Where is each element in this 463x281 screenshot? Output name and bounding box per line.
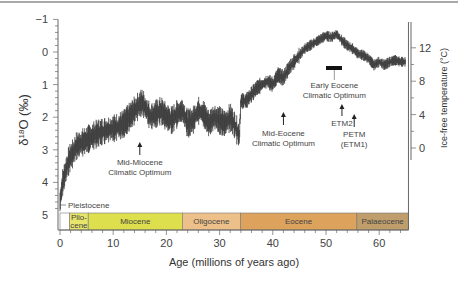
epoch-label: Oligocene [193,217,230,226]
annotation-label: Climatic Optimum [252,139,315,148]
x-tick-label: 40 [267,237,279,249]
arrow-head-icon [137,142,142,147]
x-tick-label: 10 [107,237,119,249]
y-tick-label: 3 [42,144,48,156]
y-tick-label: 5 [42,209,48,221]
x-tick-label: 30 [213,237,225,249]
annotation-label: Mid-Miocene [117,158,163,167]
y2-axis-title: Ice-free temperature (°C) [439,48,449,148]
epoch-label: Miocene [120,217,151,226]
y-tick-label: 2 [42,111,48,123]
annotation-label: Early Eocene [311,81,359,90]
y-tick-label: −1 [35,13,48,25]
annotation-label: PETM [343,130,366,139]
chart: Plio-ceneMioceneOligoceneEocenePalaeocen… [0,0,463,281]
eeco-bar [326,66,342,70]
annotation-label: Climatic Optimum [303,91,366,100]
plot-area: Plio-ceneMioceneOligoceneEocenePalaeocen… [35,13,431,249]
x-tick-label: 60 [373,237,385,249]
epoch-label: cene [70,221,88,230]
x-tick-label: 0 [57,237,63,249]
epoch-label: Eocene [285,217,313,226]
annotation-label: (ETM1) [341,140,368,149]
data-series-d18o [60,30,405,211]
y-tick-label: 4 [42,176,48,188]
y-axis-title: δ18O (‰) [16,94,31,146]
y2-tick-label: 4 [419,109,425,121]
arrow-head-icon [339,104,344,109]
x-tick-label: 20 [160,237,172,249]
y2-tick-label: 12 [419,42,431,54]
annotation-label: Mid-Eocene [262,129,305,138]
epoch-band [60,213,70,230]
y-tick-label: 1 [42,79,48,91]
y2-tick-label: 8 [419,75,425,87]
arrow-head-icon [281,112,286,117]
annotation-label: Climatic Optimum [108,168,171,177]
arrow-head-icon [352,114,357,119]
annotation-label: ETM2 [331,119,353,128]
x-axis-title: Age (millions of years ago) [169,256,299,268]
epoch-label: Palaeocene [362,217,405,226]
x-tick-label: 50 [320,237,332,249]
annotation-label: Pleistocene [68,201,110,210]
y2-tick-label: 0 [419,142,425,154]
y-tick-label: 0 [42,46,48,58]
